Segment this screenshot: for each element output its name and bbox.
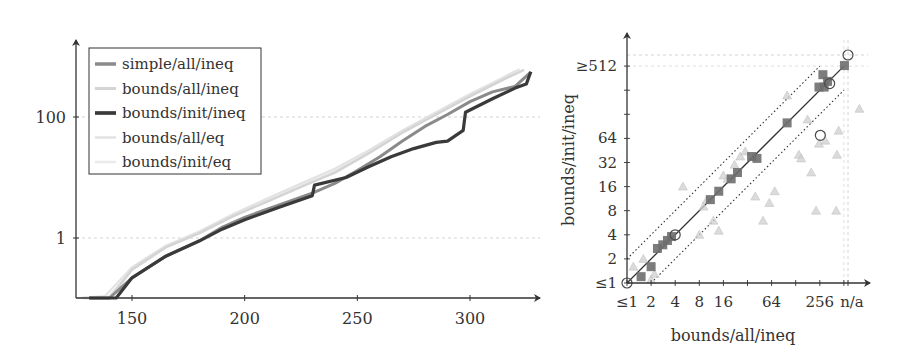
y-axis-label: bounds/init/ineq [559,94,578,226]
legend-label: bounds/init/ineq [122,104,246,122]
square-point [637,272,646,281]
triangle-point [678,182,687,190]
right-y-tick-label: 4 [607,226,617,244]
left-x-tick-label: 200 [229,309,260,328]
triangle-point [770,187,779,195]
legend-label: bounds/init/eq [122,153,232,171]
left-y-ticks: 1100 [35,108,79,248]
triangle-point [807,168,816,176]
right-y-tick-label: 16 [598,178,617,196]
left-y-tick-label: 1 [56,229,66,248]
triangle-point [730,160,739,168]
legend-label: bounds/all/ineq [122,80,239,98]
left-x-tick-label: 300 [455,309,486,328]
right-x-ticks: ≤12481664256n/a [616,280,864,311]
right-y-tick-label: 2 [607,250,617,268]
square-point [647,262,656,271]
scatter-chart: ≤12481664256n/a ≤1248163264≥512 bounds/a… [559,33,870,345]
square-point [733,168,742,177]
right-x-tick-label: 2 [646,293,656,311]
lower-factor-line [651,90,844,283]
square-point [840,61,849,70]
right-y-ticks: ≤1248163264≥512 [576,57,630,292]
square-point [783,118,792,127]
right-x-tick-label: 16 [714,293,733,311]
square-point [752,154,761,163]
triangle-point [783,91,792,99]
right-y-tick-label: 64 [598,129,617,147]
triangle-point [629,262,638,270]
triangle-point [714,226,723,234]
left-x-tick-label: 150 [117,309,148,328]
triangle-point [833,150,842,158]
cactus-line-chart: 150200250300 1100 simple/all/ineqbounds/… [35,40,540,328]
right-y-tick-label: ≤1 [595,274,617,292]
right-x-tick-label: n/a [840,293,864,311]
triangle-point [812,206,821,214]
left-x-tick-label: 250 [342,309,373,328]
right-x-tick-label: 8 [695,293,705,311]
scatter-points [622,50,864,288]
right-x-tick-label: ≤1 [616,293,638,311]
triangle-point [834,126,843,134]
square-point [714,187,723,196]
right-y-tick-label: 32 [598,154,617,172]
triangle-point [759,216,768,224]
right-y-tick-label: 8 [607,202,617,220]
triangle-point [751,192,760,200]
right-x-tick-label: 64 [762,293,781,311]
x-axis-label: bounds/all/ineq [671,326,796,345]
left-x-ticks: 150200250300 [117,295,486,328]
legend: simple/all/ineqbounds/all/ineqbounds/ini… [89,48,261,174]
triangle-point [855,104,864,112]
right-y-tick-label: ≥512 [576,57,617,75]
triangle-point [765,198,774,206]
upper-factor-line [627,66,820,259]
left-y-tick-label: 100 [35,108,66,127]
right-x-tick-label: 4 [670,293,680,311]
circle-point [815,130,825,140]
triangle-point [803,115,812,123]
legend-label: simple/all/ineq [122,55,234,73]
triangle-point [832,206,841,214]
legend-label: bounds/all/eq [122,129,225,147]
triangle-point [639,254,648,262]
right-x-tick-label: 256 [805,293,834,311]
figure: 150200250300 1100 simple/all/ineqbounds/… [0,0,902,361]
square-point [706,195,715,204]
